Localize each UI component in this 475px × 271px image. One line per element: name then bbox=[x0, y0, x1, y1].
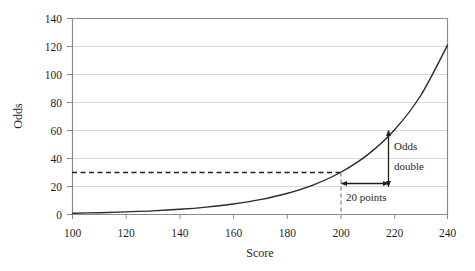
odds-double-line1: Odds bbox=[394, 140, 417, 152]
y-tick-label: 20 bbox=[51, 181, 63, 193]
x-tick-label: 220 bbox=[386, 227, 404, 239]
y-tick-label: 140 bbox=[45, 13, 63, 25]
x-tick-label: 200 bbox=[332, 227, 350, 239]
y-tick-label: 40 bbox=[51, 153, 63, 165]
chart-svg: 140 120 100 80 60 40 20 0 100 120 140 16… bbox=[0, 0, 475, 271]
y-tick-label: 120 bbox=[45, 41, 63, 53]
y-tick-label: 100 bbox=[45, 69, 63, 81]
x-tick-label: 240 bbox=[439, 227, 457, 239]
x-tick-label: 160 bbox=[225, 227, 243, 239]
y-tick-label: 60 bbox=[51, 125, 63, 137]
twenty-points-text: 20 points bbox=[346, 191, 387, 203]
y-tick-label: 80 bbox=[51, 97, 63, 109]
x-axis-title: Score bbox=[246, 246, 273, 260]
x-tick-label: 140 bbox=[171, 227, 189, 239]
odds-double-line2: double bbox=[394, 160, 424, 172]
x-tick-label: 100 bbox=[64, 227, 82, 239]
y-axis-title: Odds bbox=[11, 103, 25, 129]
y-tick-label: 0 bbox=[56, 209, 62, 221]
x-tick-label: 180 bbox=[279, 227, 297, 239]
x-tick-label: 120 bbox=[118, 227, 136, 239]
odds-vs-score-chart: 140 120 100 80 60 40 20 0 100 120 140 16… bbox=[0, 0, 475, 271]
